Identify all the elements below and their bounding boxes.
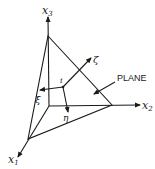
eta-label: η bbox=[63, 113, 69, 123]
x2-axis bbox=[49, 105, 140, 106]
coordinate-plane-diagram: x3 x2 x1 i ζ ξ η PLANE bbox=[0, 0, 155, 169]
x1-axis bbox=[18, 106, 49, 157]
plane-pointer-arrow bbox=[94, 82, 115, 94]
xi-axis bbox=[40, 87, 63, 90]
point-i-label: i bbox=[60, 76, 63, 85]
xi-label: ξ bbox=[35, 94, 41, 105]
x3-label: x3 bbox=[42, 4, 53, 18]
plane-triangle bbox=[28, 36, 112, 139]
plane-label: PLANE bbox=[117, 73, 147, 83]
point-i-dot bbox=[62, 86, 65, 89]
x1-label: x1 bbox=[8, 153, 19, 167]
x2-label: x2 bbox=[142, 99, 153, 113]
zeta-label: ζ bbox=[93, 54, 99, 65]
zeta-axis bbox=[63, 58, 91, 87]
x3-axis bbox=[48, 17, 49, 106]
eta-axis bbox=[63, 87, 68, 112]
